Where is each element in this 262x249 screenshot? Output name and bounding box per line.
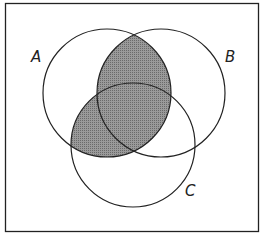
venn-diagram: A B C [0, 0, 262, 249]
label-c: C [185, 182, 196, 200]
label-b: B [225, 48, 235, 66]
label-a: A [30, 48, 41, 66]
